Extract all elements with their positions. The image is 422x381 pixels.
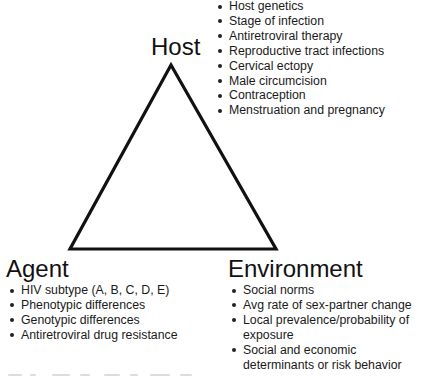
- agent-factor: Antiretroviral drug resistance: [10, 328, 178, 343]
- host-factor: Menstruation and pregnancy: [218, 103, 385, 118]
- agent-factor: HIV subtype (A, B, C, D, E): [10, 283, 178, 298]
- environment-factor-text: Social and economic: [243, 343, 412, 358]
- host-factor: Cervical ectopy: [218, 59, 385, 74]
- host-factor: Reproductive tract infections: [218, 44, 385, 59]
- environment-factor-text-continued: exposure: [243, 328, 412, 343]
- host-factors-list: Host genetics Stage of infection Antiret…: [218, 0, 385, 118]
- environment-factor: Avg rate of sex-partner change: [232, 298, 412, 313]
- environment-factor-text: Social norms: [243, 283, 412, 298]
- host-factor: Contraception: [218, 88, 385, 103]
- host-factor: Male circumcision: [218, 74, 385, 89]
- environment-heading: Environment: [228, 257, 363, 281]
- host-heading: Host: [151, 35, 200, 59]
- agent-factor: Phenotypic differences: [10, 298, 178, 313]
- environment-factor-text-continued: determinants or risk behavior: [243, 358, 412, 373]
- agent-heading: Agent: [6, 257, 69, 281]
- agent-factor: Genotypic differences: [10, 313, 178, 328]
- host-factor: Antiretroviral therapy: [218, 29, 385, 44]
- environment-factor: Local prevalence/probability of exposure: [232, 313, 412, 343]
- environment-factor-text: Local prevalence/probability of: [243, 313, 412, 328]
- agent-factors-list: HIV subtype (A, B, C, D, E) Phenotypic d…: [10, 283, 178, 343]
- host-factor: Host genetics: [218, 0, 385, 14]
- environment-factors-list: Social norms Avg rate of sex-partner cha…: [232, 283, 412, 372]
- environment-factor: Social norms: [232, 283, 412, 298]
- environment-factor-text: Avg rate of sex-partner change: [243, 298, 412, 313]
- environment-factor: Social and economic determinants or risk…: [232, 343, 412, 373]
- cropped-caption-fragment: [0, 371, 210, 379]
- host-factor: Stage of infection: [218, 14, 385, 29]
